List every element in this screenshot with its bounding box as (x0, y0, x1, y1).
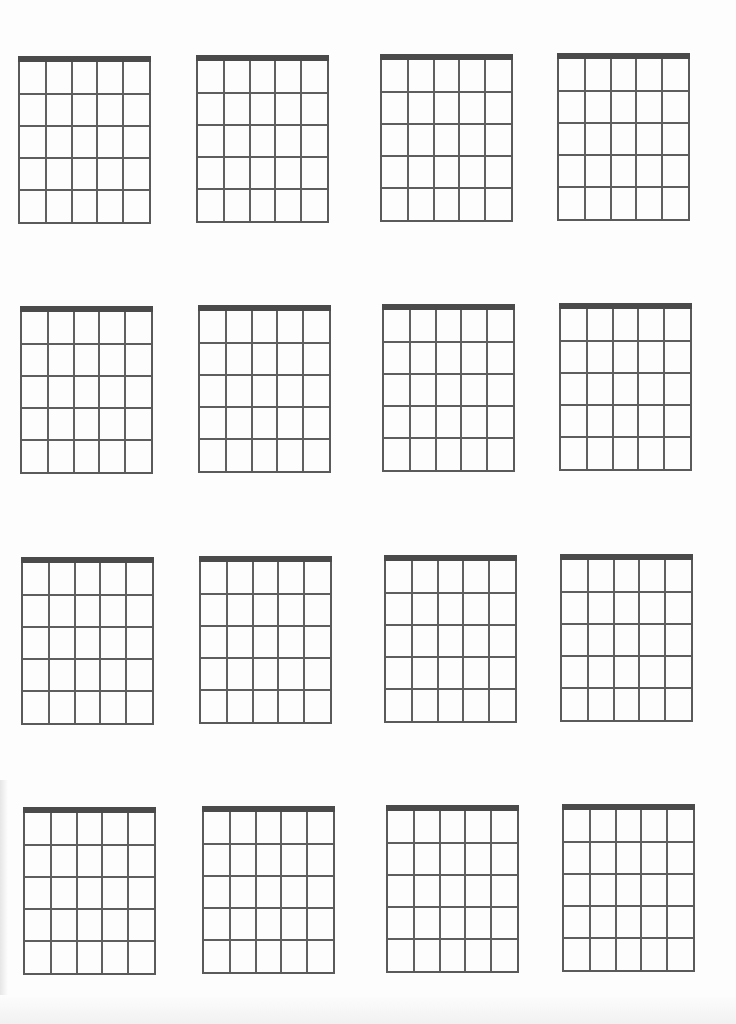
string-line (73, 312, 75, 472)
string-line (409, 310, 411, 470)
string-line (586, 309, 588, 469)
fret-line (23, 594, 152, 596)
fret-line (23, 690, 152, 692)
fret-line (198, 92, 327, 94)
fret-line (388, 874, 517, 876)
fret-line (200, 342, 329, 344)
string-line (462, 561, 464, 721)
string-line (223, 61, 225, 221)
chord-diagram-r3c1 (21, 557, 154, 725)
string-line (458, 60, 460, 220)
string-line (666, 810, 668, 970)
fret-line (23, 626, 152, 628)
fret-line (562, 687, 691, 689)
fret-line (22, 375, 151, 377)
fret-line (562, 591, 691, 593)
string-line (71, 62, 73, 222)
string-line (640, 810, 642, 970)
chord-diagram-r1c2 (196, 55, 329, 223)
string-line (439, 811, 441, 971)
string-line (252, 562, 254, 722)
fretboard-grid (386, 811, 519, 973)
fret-line (198, 124, 327, 126)
string-line (484, 60, 486, 220)
string-line (125, 563, 127, 723)
fret-line (561, 340, 690, 342)
chord-diagram-r4c2 (202, 806, 335, 974)
fretboard-grid (380, 60, 513, 222)
chord-diagram-r3c2 (199, 556, 332, 724)
chord-diagram-r2c2 (198, 305, 331, 473)
fret-line (382, 123, 511, 125)
fret-line (25, 940, 154, 942)
fret-line (561, 372, 690, 374)
string-line (637, 309, 639, 469)
fretboard-grid (557, 59, 690, 221)
fret-line (559, 154, 688, 156)
string-line (276, 311, 278, 471)
fret-line (382, 187, 511, 189)
string-line (99, 563, 101, 723)
fret-line (562, 623, 691, 625)
fret-line (20, 93, 149, 95)
string-line (437, 561, 439, 721)
scan-edge-shadow (0, 780, 8, 1024)
string-line (229, 812, 231, 972)
fret-line (388, 842, 517, 844)
string-line (124, 312, 126, 472)
fret-line (388, 938, 517, 940)
string-line (407, 60, 409, 220)
string-line (302, 311, 304, 471)
fret-line (23, 658, 152, 660)
fretboard-grid (202, 812, 335, 974)
fret-line (20, 125, 149, 127)
fretboard-grid (560, 560, 693, 722)
string-line (488, 561, 490, 721)
string-line (277, 562, 279, 722)
string-line (226, 562, 228, 722)
fret-line (559, 90, 688, 92)
fretboard-grid (21, 563, 154, 725)
string-line (249, 61, 251, 221)
fret-line (382, 155, 511, 157)
string-line (48, 563, 50, 723)
fret-line (22, 407, 151, 409)
string-line (303, 562, 305, 722)
fretboard-grid (198, 311, 331, 473)
fretboard-grid (199, 562, 332, 724)
string-line (300, 61, 302, 221)
fretboard-grid (384, 561, 517, 723)
fret-line (386, 592, 515, 594)
string-line (96, 62, 98, 222)
string-line (76, 813, 78, 973)
string-line (635, 59, 637, 219)
bleed-through-text (0, 995, 736, 1024)
string-line (127, 813, 129, 973)
chord-diagram-r2c3 (382, 304, 515, 472)
fret-line (562, 655, 691, 657)
string-line (664, 560, 666, 720)
string-line (587, 560, 589, 720)
chord-diagram-r3c4 (560, 554, 693, 722)
string-line (45, 62, 47, 222)
string-line (613, 560, 615, 720)
fret-line (20, 189, 149, 191)
fret-line (25, 908, 154, 910)
chord-diagram-r3c3 (384, 555, 517, 723)
string-line (435, 310, 437, 470)
fret-line (386, 624, 515, 626)
fretboard-grid (559, 309, 692, 471)
string-line (460, 310, 462, 470)
fret-line (204, 875, 333, 877)
fret-line (384, 405, 513, 407)
fret-line (384, 373, 513, 375)
fret-line (382, 91, 511, 93)
string-line (464, 811, 466, 971)
string-line (411, 561, 413, 721)
string-line (615, 810, 617, 970)
string-line (74, 563, 76, 723)
chord-diagram-r4c4 (562, 804, 695, 972)
chord-diagram-r2c4 (559, 303, 692, 471)
fret-line (204, 939, 333, 941)
string-line (225, 311, 227, 471)
